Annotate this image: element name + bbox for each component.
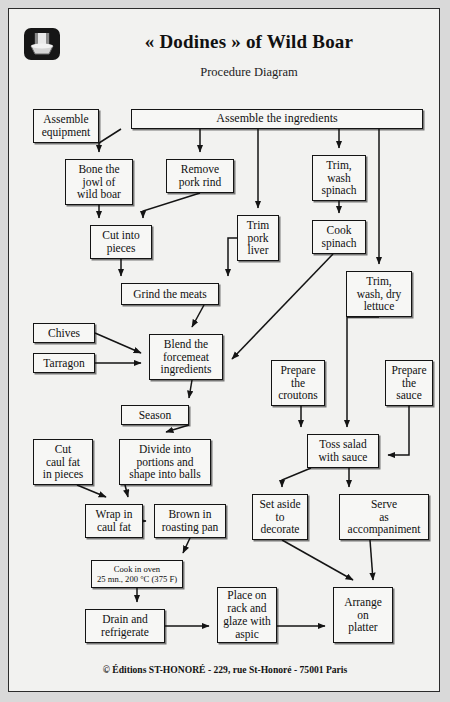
node-season: Season (121, 405, 189, 425)
node-label: Preparethesauce (391, 364, 426, 403)
node-label: Drain andrefrigerate (101, 613, 149, 639)
node-label: Cutcaul fatin pieces (43, 443, 84, 482)
node-cut-into-pieces: Cut intopieces (90, 225, 152, 259)
node-label: Cookspinach (321, 224, 356, 250)
node-label: Tarragon (43, 357, 84, 370)
node-trim-wash-spinach: Trim,washspinach (312, 155, 366, 201)
node-assemble-equipment: Assembleequipment (33, 109, 99, 143)
node-grind-meats: Grind the meats (121, 283, 219, 305)
node-label: Brown inroasting pan (162, 508, 219, 534)
node-wrap-caul-fat: Wrap incaul fat (85, 504, 143, 538)
node-cook-in-oven: Cook in oven25 mn., 200 °C (375 F) (91, 560, 183, 588)
node-place-on-rack: Place onrack andglaze withaspic (217, 587, 277, 643)
node-blend-forcemeat: Blend theforcemeatingredients (149, 334, 223, 380)
node-toss-salad: Toss saladwith sauce (307, 434, 379, 468)
node-cut-caul-fat: Cutcaul fatin pieces (33, 439, 93, 485)
node-set-aside-decorate: Set asidetodecorate (252, 494, 308, 540)
node-assemble-ingredients: Assemble the ingredients (131, 109, 423, 129)
node-label: Grind the meats (133, 288, 206, 301)
node-serve-accompaniment: Serveasaccompaniment (339, 494, 429, 540)
node-label: Assemble the ingredients (216, 112, 337, 125)
node-brown-roasting-pan: Brown inroasting pan (154, 504, 226, 538)
node-label: Blend theforcemeatingredients (160, 338, 211, 377)
node-divide-portions: Divide intoportions andshape into balls (119, 439, 211, 485)
node-label: Season (139, 409, 172, 422)
node-trim-pork-liver: Trimporkliver (237, 215, 279, 261)
node-label: Cut intopieces (102, 229, 139, 255)
node-arrange-on-platter: Arrangeonplatter (333, 587, 393, 643)
node-label: Preparethecroutons (278, 364, 318, 403)
footer-credit: © Éditions ST-HONORÉ - 229, rue St-Honor… (9, 664, 441, 675)
node-label: Arrangeonplatter (344, 596, 382, 635)
node-label: Set asidetodecorate (259, 498, 300, 537)
node-label: Assembleequipment (42, 113, 91, 139)
node-chives: Chives (33, 323, 95, 343)
node-label: Chives (48, 327, 80, 340)
node-label: Place onrack andglaze withaspic (223, 589, 271, 641)
node-tarragon: Tarragon (33, 353, 95, 373)
diagram-canvas: AssembleequipmentAssemble the ingredient… (9, 9, 441, 693)
node-label: Toss saladwith sauce (319, 438, 368, 464)
node-prepare-sauce: Preparethesauce (385, 360, 433, 406)
node-label: Cook in oven25 mn., 200 °C (375 F) (97, 564, 177, 585)
node-trim-wash-dry-lettuce: Trim,wash, drylettuce (346, 271, 412, 317)
node-label: Wrap incaul fat (96, 508, 133, 534)
node-label: Bone thejowl ofwild boar (77, 163, 121, 202)
node-label: Serveasaccompaniment (348, 498, 421, 537)
node-prepare-croutons: Preparethecroutons (271, 360, 325, 406)
node-label: Trimporkliver (247, 219, 270, 258)
node-cook-spinach: Cookspinach (312, 220, 366, 254)
node-drain-refrigerate: Drain andrefrigerate (85, 609, 165, 643)
node-label: Removepork rind (179, 163, 221, 189)
node-label: Divide intoportions andshape into balls (129, 443, 201, 482)
node-label: Trim,washspinach (321, 159, 356, 198)
node-remove-pork-rind: Removepork rind (166, 159, 234, 193)
node-label: Trim,wash, drylettuce (357, 275, 402, 314)
node-bone-jowl: Bone thejowl ofwild boar (65, 159, 133, 205)
document-page: « Dodines » of Wild Boar Procedure Diagr… (8, 8, 440, 692)
